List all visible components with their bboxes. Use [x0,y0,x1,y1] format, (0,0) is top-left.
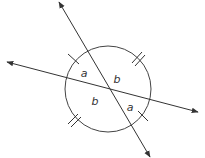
single-tick-lower-right [138,111,148,121]
angle-label-a-lower: a [127,102,134,113]
angle-label-b-upper: b [114,74,121,85]
angle-label-b-lower: b [92,96,99,107]
angle-label-a-upper: a [81,68,88,79]
shallow-line [7,62,198,112]
double-tick-lower-left-b [71,117,81,127]
diagram-canvas: a b b a [0,0,205,158]
circle [65,46,151,132]
geometry-figure [0,0,205,158]
